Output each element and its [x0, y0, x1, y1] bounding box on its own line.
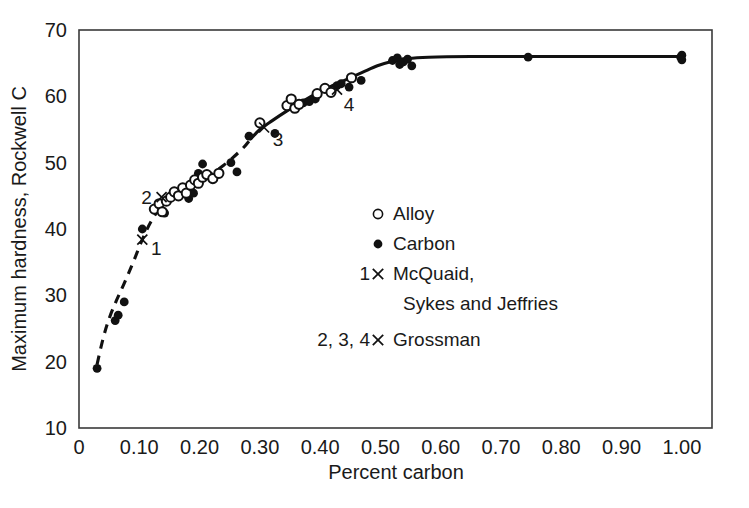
- legend-open-circle-icon: [373, 209, 382, 218]
- legend-key: 2, 3, 4: [317, 329, 370, 350]
- data-point-alloy: [214, 169, 223, 178]
- x-tick-0.10: 0.10: [120, 436, 159, 458]
- x-tick-0.90: 0.90: [602, 436, 641, 458]
- hardenability-scatter-chart: 10203040506070 00.100.200.300.400.500.60…: [0, 0, 749, 508]
- data-point-carbon: [524, 53, 533, 62]
- y-axis-title: Maximum hardness, Rockwell C: [8, 86, 30, 372]
- legend-label: Grossman: [393, 329, 481, 350]
- data-point-alloy: [347, 73, 356, 82]
- hardenability-curve-dashed: [97, 139, 251, 365]
- data-point-alloy: [158, 207, 167, 216]
- data-point-carbon: [337, 79, 346, 88]
- x-axis-title: Percent carbon: [328, 461, 464, 483]
- x-tick-0.50: 0.50: [361, 436, 400, 458]
- data-point-carbon: [345, 83, 354, 92]
- x-tick-0.40: 0.40: [301, 436, 340, 458]
- y-tick-60: 60: [45, 85, 67, 107]
- data-point-carbon: [138, 225, 147, 234]
- data-point-carbon: [357, 76, 366, 85]
- legend-entry-alloy: Alloy: [373, 203, 434, 224]
- x-axis-tick-labels: 00.100.200.300.400.500.600.700.800.901.0…: [73, 436, 701, 458]
- annotation-label-4: 4: [344, 94, 355, 115]
- data-point-carbon: [114, 311, 123, 320]
- series-alloy-points: [150, 73, 356, 216]
- x-tick-1.00: 1.00: [662, 436, 701, 458]
- legend-label: Carbon: [393, 233, 455, 254]
- y-axis-tick-labels: 10203040506070: [45, 19, 67, 439]
- legend-filled-circle-icon: [374, 240, 383, 249]
- data-point-carbon: [407, 61, 416, 70]
- annotation-1: 1: [137, 235, 161, 259]
- y-tick-30: 30: [45, 284, 67, 306]
- legend-label: Alloy: [393, 203, 435, 224]
- x-tick-0: 0: [73, 436, 84, 458]
- series-carbon-points: [93, 51, 687, 373]
- data-point-carbon: [245, 132, 254, 141]
- annotation-label-2: 2: [141, 187, 152, 208]
- x-tick-0.80: 0.80: [542, 436, 581, 458]
- y-tick-40: 40: [45, 218, 67, 240]
- chart-figure: 10203040506070 00.100.200.300.400.500.60…: [0, 0, 749, 508]
- y-tick-20: 20: [45, 351, 67, 373]
- legend-entry-carbon: Carbon: [374, 233, 456, 254]
- chart-legend: AlloyCarbon1McQuaid,Sykes and Jeffries2,…: [317, 203, 558, 350]
- data-point-carbon: [677, 55, 686, 64]
- data-point-carbon: [93, 364, 102, 373]
- annotation-3: 3: [259, 123, 283, 150]
- legend-entry-grossman: 2, 3, 4Grossman: [317, 329, 480, 350]
- annotation-label-3: 3: [273, 129, 284, 150]
- legend-entry-mcquaid: 1McQuaid,: [359, 263, 474, 284]
- x-tick-0.20: 0.20: [180, 436, 219, 458]
- x-tick-0.70: 0.70: [482, 436, 521, 458]
- x-tick-0.30: 0.30: [240, 436, 279, 458]
- data-point-carbon: [198, 160, 207, 169]
- x-tick-0.60: 0.60: [421, 436, 460, 458]
- data-point-carbon: [233, 168, 242, 177]
- legend-key: 1: [359, 263, 370, 284]
- y-tick-50: 50: [45, 152, 67, 174]
- annotation-label-1: 1: [151, 238, 162, 259]
- data-point-carbon: [227, 158, 236, 167]
- plot-annotations: 1234: [137, 85, 354, 259]
- y-tick-70: 70: [45, 19, 67, 41]
- y-tick-10: 10: [45, 417, 67, 439]
- legend-label: McQuaid,: [393, 263, 474, 284]
- data-point-alloy: [294, 100, 303, 109]
- data-point-carbon: [120, 298, 129, 307]
- plot-frame: [79, 30, 712, 428]
- legend-label-continued: Sykes and Jeffries: [403, 293, 558, 314]
